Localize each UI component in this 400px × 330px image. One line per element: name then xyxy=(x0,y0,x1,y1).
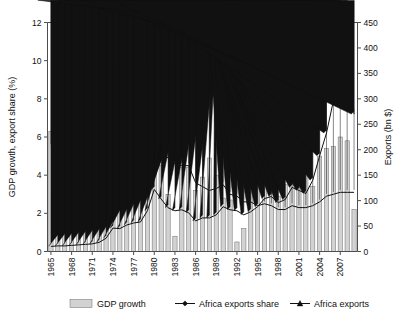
x-tick-label-2007: 2007 xyxy=(335,257,345,276)
legend-label-gdp-growth: GDP growth xyxy=(97,299,146,309)
x-tick-label-1968: 1968 xyxy=(67,257,77,276)
y2-axis-title: Exports (bn $) xyxy=(383,109,393,166)
x-tick-label-1992: 1992 xyxy=(232,257,242,276)
legend-label-africa-exports: Africa exports xyxy=(314,299,370,309)
x-tick-label-1977: 1977 xyxy=(129,257,139,276)
x-tick-label-1983: 1983 xyxy=(170,257,180,276)
chart-container: 0246810120501001502002503003504004501965… xyxy=(0,0,400,330)
y-tick-label-4: 4 xyxy=(37,170,42,180)
x-tick-label-2004: 2004 xyxy=(315,257,325,276)
y-axis-title: GDP growth, export share (%) xyxy=(7,77,17,197)
y-tick-label-0: 0 xyxy=(37,247,42,257)
y-tick-label-8: 8 xyxy=(37,94,42,104)
legend-marker-diamond xyxy=(182,301,187,306)
y2-tick-label-150: 150 xyxy=(364,170,378,180)
y2-tick-label-0: 0 xyxy=(364,247,369,257)
y2-tick-label-250: 250 xyxy=(364,119,378,129)
y2-tick-label-100: 100 xyxy=(364,196,378,206)
y-tick-label-6: 6 xyxy=(37,132,42,142)
y-tick-label-2: 2 xyxy=(37,208,42,218)
y-tick-label-10: 10 xyxy=(32,56,42,66)
combo-chart: 0246810120501001502002503003504004501965… xyxy=(0,0,400,330)
x-tick-label-1980: 1980 xyxy=(149,257,159,276)
x-tick-label-1974: 1974 xyxy=(108,257,118,276)
y2-tick-label-450: 450 xyxy=(364,18,378,28)
y2-tick-label-50: 50 xyxy=(364,221,374,231)
bar-1993 xyxy=(242,229,246,252)
y2-tick-label-400: 400 xyxy=(364,43,378,53)
x-tick-label-1989: 1989 xyxy=(211,257,221,276)
y2-tick-label-350: 350 xyxy=(364,68,378,78)
bar-2009 xyxy=(352,210,356,252)
legend-swatch-bar xyxy=(70,300,92,308)
x-tick-label-1965: 1965 xyxy=(46,257,56,276)
x-tick-label-1986: 1986 xyxy=(191,257,201,276)
bar-1990 xyxy=(221,198,225,251)
bar-1983 xyxy=(173,236,177,251)
y2-tick-label-200: 200 xyxy=(364,145,378,155)
x-tick-label-2001: 2001 xyxy=(294,257,304,276)
y-tick-label-12: 12 xyxy=(32,18,42,28)
legend-group: GDP growthAfrica exports shareAfrica exp… xyxy=(70,299,370,309)
bar-1992 xyxy=(235,242,239,252)
x-tick-label-1995: 1995 xyxy=(253,257,263,276)
x-tick-label-1998: 1998 xyxy=(273,257,283,276)
x-tick-label-1971: 1971 xyxy=(87,257,97,276)
legend-label-africa-exports-share: Africa exports share xyxy=(199,299,279,309)
y2-tick-label-300: 300 xyxy=(364,94,378,104)
